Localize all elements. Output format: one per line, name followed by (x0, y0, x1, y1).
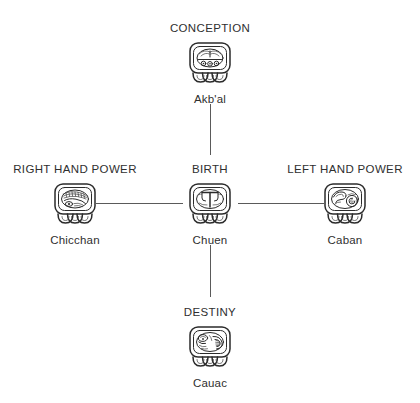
connector-birth-to-destiny (210, 245, 211, 297)
node-left-hand-power-name: Caban (275, 233, 415, 247)
cauac-glyph (182, 324, 238, 372)
node-destiny-name: Cauac (140, 376, 280, 390)
node-destiny: DESTINY (140, 305, 280, 390)
node-right-hand-power-title: RIGHT HAND POWER (5, 162, 145, 176)
node-conception-name: Akb'al (140, 92, 280, 106)
caban-glyph (317, 181, 373, 229)
akbal-glyph (182, 40, 238, 88)
chuen-glyph (182, 181, 238, 229)
node-conception: CONCEPTION (140, 21, 280, 106)
node-right-hand-power: RIGHT HAND POWER (5, 162, 145, 247)
node-left-hand-power-title: LEFT HAND POWER (275, 162, 415, 176)
node-right-hand-power-name: Chicchan (5, 233, 145, 247)
node-birth-title: BIRTH (140, 162, 280, 176)
chicchan-glyph (47, 181, 103, 229)
node-destiny-title: DESTINY (140, 305, 280, 319)
connector-conception-to-birth (210, 104, 211, 155)
node-left-hand-power: LEFT HAND POWER (275, 162, 415, 247)
maya-destiny-cross-diagram: CONCEPTION (0, 0, 420, 403)
node-conception-title: CONCEPTION (140, 21, 280, 35)
node-birth: BIRTH (140, 162, 280, 247)
node-birth-name: Chuen (140, 233, 280, 247)
